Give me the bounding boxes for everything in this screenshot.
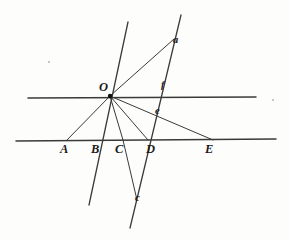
point-label-A: A: [60, 143, 68, 156]
point-label-c: c: [135, 193, 140, 204]
ray-from-O-to-C: [110, 96, 123, 140]
point-label-D: D: [146, 143, 155, 156]
geometry-figure: OABCDEafec: [0, 0, 289, 240]
horizontal-line-ABCDE: [16, 139, 276, 141]
point-label-O: O: [99, 81, 108, 94]
point-label-C: C: [115, 143, 123, 156]
point-label-f: f: [161, 80, 165, 91]
point-label-E: E: [205, 143, 213, 156]
vertices-group: [108, 94, 112, 98]
ray-from-O-through-e-to-E: [110, 96, 213, 140]
lines-group: [16, 15, 276, 228]
paper-speck-1: [272, 99, 274, 101]
horizontal-line-through-O: [28, 97, 256, 98]
steep-line-through-B-and-c: [89, 22, 128, 205]
figure-canvas: [0, 0, 289, 240]
vertex-dot-O: [108, 94, 112, 98]
segment-from-C-down-to-c: [123, 140, 137, 200]
paper-speck-0: [48, 61, 50, 63]
ray-from-O-to-D: [110, 96, 148, 140]
ray-from-O-to-A: [67, 96, 110, 140]
point-label-a: a: [173, 35, 178, 46]
point-label-B: B: [91, 143, 99, 156]
point-label-e: e: [155, 106, 160, 117]
